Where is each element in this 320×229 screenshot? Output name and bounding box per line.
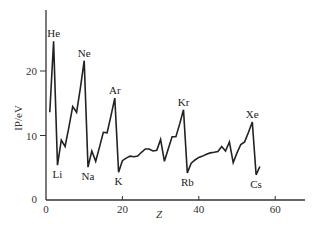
y-axis-title: IP/eV	[12, 105, 24, 131]
element-label-ar: Ar	[109, 84, 121, 96]
axis-ticks: 020406001020	[26, 65, 281, 215]
element-label-li: Li	[53, 168, 63, 180]
ionization-curve	[50, 41, 260, 175]
y-tick-label: 20	[26, 65, 38, 77]
element-label-na: Na	[82, 170, 95, 182]
element-label-he: He	[47, 27, 60, 39]
element-label-cs: Cs	[250, 178, 262, 190]
y-tick-label: 10	[26, 130, 38, 142]
y-tick-label: 0	[32, 193, 38, 205]
element-label-rb: Rb	[181, 176, 194, 188]
x-tick-label: 60	[270, 203, 282, 215]
x-tick-label: 0	[43, 203, 49, 215]
element-labels: HeNeArKrXeLiNaKRbCs	[47, 27, 262, 190]
ionization-energy-chart: 020406001020 HeNeArKrXeLiNaKRbCs Z IP/eV	[0, 0, 320, 229]
element-label-ne: Ne	[78, 47, 91, 59]
x-tick-label: 20	[117, 203, 129, 215]
element-label-kr: Kr	[178, 96, 190, 108]
x-axis-title: Z	[156, 208, 163, 220]
element-label-xe: Xe	[246, 108, 259, 120]
element-label-k: K	[115, 175, 123, 187]
x-tick-label: 40	[193, 203, 205, 215]
